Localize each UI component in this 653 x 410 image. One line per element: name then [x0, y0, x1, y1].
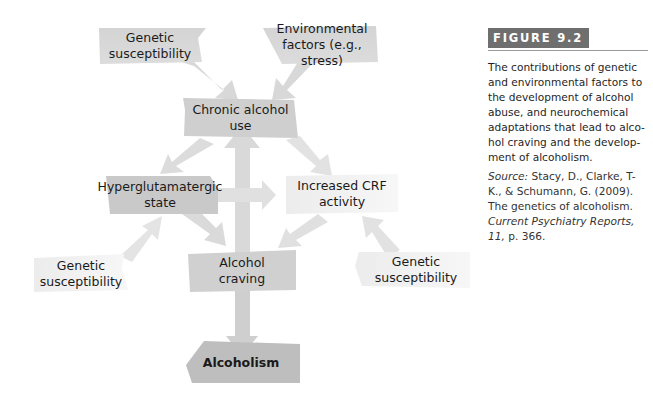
node-increased-crf-activity: Increased CRFactivity [286, 175, 398, 213]
figure-label: FIGURE 9.2 [488, 28, 589, 48]
arrow-genetic-to-chronic [175, 60, 238, 100]
node-text-line: susceptibility [375, 270, 457, 286]
node-text-line: craving [219, 271, 265, 287]
caption-divider [488, 50, 648, 51]
arrow-chronic-to-hyperglutamatergic [160, 138, 214, 174]
node-alcoholism: Alcoholism [196, 343, 286, 383]
node-text-line: Alcoholism [203, 355, 279, 371]
node-text-line: Genetic [375, 254, 457, 270]
node-text-line: susceptibility [40, 274, 122, 290]
node-text-line: Alcohol [219, 255, 265, 271]
node-text-line: Environmental [262, 21, 382, 37]
figure-caption: FIGURE 9.2 The contributions of genetic … [488, 28, 648, 244]
node-genetic-right: Geneticsusceptibility [362, 252, 470, 288]
caption-text: The contributions of genetic and environ… [488, 60, 648, 165]
node-environmental: Environmentalfactors (e.g., stress) [262, 27, 382, 63]
arrow-chronic-to-crf [286, 136, 332, 176]
node-text-line: state [98, 195, 223, 211]
node-genetic-top: Geneticsusceptibility [100, 28, 200, 64]
source-page: p. 366. [505, 230, 545, 242]
node-text-line: Hyperglutamatergic [98, 179, 223, 195]
caption-source: Source: Stacy, D., Clarke, T-K., & Schum… [488, 169, 648, 244]
node-text-line: susceptibility [109, 46, 191, 62]
node-genetic-left: Geneticsusceptibility [34, 256, 128, 292]
node-text-line: Genetic [40, 258, 122, 274]
node-text-line: Chronic alcohol use [183, 102, 298, 134]
node-chronic-alcohol-use: Chronic alcohol use [183, 100, 298, 136]
alcoholism-diagram: Geneticsusceptibility Environmentalfacto… [0, 0, 470, 410]
source-label: Source: [488, 170, 528, 182]
node-text-line: Genetic [109, 30, 191, 46]
node-text-line: Increased CRF [297, 178, 386, 194]
arrow-crf-to-craving [278, 214, 328, 248]
node-hyperglutamatergic-state: Hyperglutamatergicstate [105, 176, 215, 214]
node-text-line: activity [297, 194, 386, 210]
node-alcohol-craving: Alcoholcraving [188, 252, 296, 290]
node-text-line: factors (e.g., stress) [262, 37, 382, 69]
